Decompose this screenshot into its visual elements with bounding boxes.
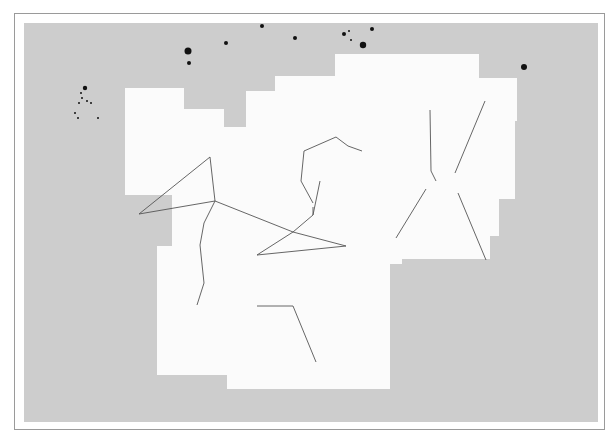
star-map	[24, 23, 598, 422]
